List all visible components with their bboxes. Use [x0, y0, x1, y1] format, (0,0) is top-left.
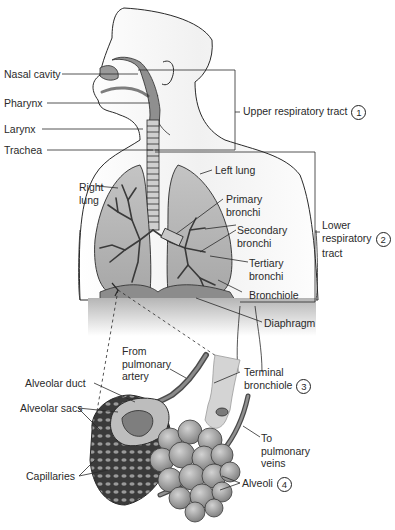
secondary-bronchi-line-2: bronchi: [237, 237, 287, 250]
label-to-pulmonary-veins: To pulmonary veins: [261, 432, 310, 470]
terminal-bronchiole-line-2: bronchiole3: [244, 379, 311, 394]
terminal-bronchiole: [205, 355, 240, 428]
alveoli-cluster: [150, 420, 240, 522]
alveoli-text: Alveoli: [242, 477, 273, 489]
lower-tract-line-1: Lower: [322, 219, 391, 232]
label-capillaries: Capillaries: [26, 470, 75, 483]
label-left-lung: Left lung: [215, 164, 255, 177]
label-terminal-bronchiole: Terminal bronchiole3: [244, 366, 311, 394]
trachea-rings: [147, 120, 159, 230]
label-lower-respiratory-tract: Lower respiratory2 tract: [322, 219, 391, 259]
veins-line-1: To: [261, 432, 310, 445]
label-larynx: Larynx: [4, 123, 36, 136]
veins-line-3: veins: [261, 457, 310, 470]
label-from-pulmonary-artery: From pulmonary artery: [122, 345, 171, 383]
terminal-bronchiole-line-1: Terminal: [244, 366, 311, 379]
artery-line-3: artery: [122, 370, 171, 383]
label-primary-bronchi: Primary bronchi: [226, 193, 262, 218]
label-pharynx: Pharynx: [4, 97, 43, 110]
lower-tract-line-2: respiratory2: [322, 232, 391, 247]
label-alveolar-sacs: Alveolar sacs: [20, 402, 82, 415]
label-alveolar-duct: Alveolar duct: [25, 377, 86, 390]
right-lung-line-2: lung: [79, 194, 104, 207]
label-upper-respiratory-tract: Upper respiratory tract1: [243, 105, 366, 120]
tertiary-bronchi-line-2: bronchi: [249, 270, 283, 283]
secondary-bronchi-line-1: Secondary: [237, 224, 287, 237]
primary-bronchi-line-2: bronchi: [226, 206, 262, 219]
label-trachea: Trachea: [4, 144, 42, 157]
upper-tract-text: Upper respiratory tract: [243, 105, 347, 117]
number-badge-4: 4: [277, 477, 292, 492]
number-badge-3: 3: [296, 379, 311, 394]
veins-line-2: pulmonary: [261, 445, 310, 458]
label-right-lung: Right lung: [79, 181, 104, 206]
label-alveoli: Alveoli4: [242, 477, 292, 492]
lower-tract-line-3: tract: [322, 247, 391, 260]
number-badge-2: 2: [376, 232, 391, 247]
label-nasal-cavity: Nasal cavity: [4, 68, 61, 81]
label-diaphragm: Diaphragm: [264, 317, 315, 330]
label-tertiary-bronchi: Tertiary bronchi: [249, 257, 283, 282]
tertiary-bronchi-line-1: Tertiary: [249, 257, 283, 270]
right-lung-line-1: Right: [79, 181, 104, 194]
primary-bronchi-line-1: Primary: [226, 193, 262, 206]
artery-line-2: pulmonary: [122, 358, 171, 371]
artery-line-1: From: [122, 345, 171, 358]
number-badge-1: 1: [351, 105, 366, 120]
label-bronchiole: Bronchiole: [249, 289, 299, 302]
label-secondary-bronchi: Secondary bronchi: [237, 224, 287, 249]
